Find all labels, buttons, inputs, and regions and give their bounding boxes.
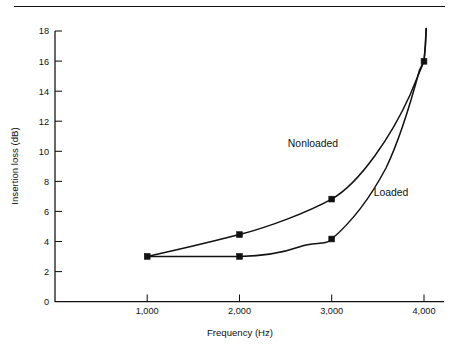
- chart-figure: 18 16 14 12 10 8 6 4 2 0 1,000 2,000 3,0…: [0, 0, 456, 357]
- y-tick-label: 12: [39, 117, 49, 127]
- y-tick-label: 8: [44, 177, 49, 187]
- series-annotation-nonloaded: Nonloaded: [288, 138, 338, 149]
- series-annotation-loaded: Loaded: [374, 187, 409, 198]
- data-point-marker: [237, 232, 243, 238]
- x-tick-label: 4,000: [413, 306, 436, 316]
- y-tick-label: 6: [44, 207, 49, 217]
- y-tick-label: 10: [39, 147, 49, 157]
- data-point-marker: [329, 236, 335, 242]
- y-tick-label: 18: [39, 26, 49, 36]
- x-axis-tick-marks: [147, 295, 424, 302]
- series-curve-nonloaded: [147, 29, 426, 257]
- y-axis-title: Insertion loss (dB): [9, 127, 20, 204]
- data-point-markers: [144, 58, 427, 259]
- y-tick-label: 16: [39, 57, 49, 67]
- y-tick-label: 0: [44, 297, 49, 307]
- data-point-marker: [329, 196, 335, 202]
- y-tick-label: 4: [44, 237, 49, 247]
- x-tick-label: 3,000: [320, 306, 343, 316]
- y-tick-label: 14: [39, 87, 49, 97]
- y-axis-tick-labels: 18 16 14 12 10 8 6 4 2 0: [39, 26, 49, 307]
- axis-lines: [55, 31, 444, 302]
- y-tick-label: 2: [44, 267, 49, 277]
- data-point-marker: [144, 254, 150, 260]
- x-axis-title: Frequency (Hz): [207, 327, 273, 338]
- x-tick-label: 1,000: [136, 306, 159, 316]
- x-axis-tick-labels: 1,000 2,000 3,000 4,000: [136, 306, 436, 316]
- y-axis-tick-marks: [55, 31, 62, 272]
- data-point-marker: [237, 254, 243, 260]
- insertion-loss-line-chart: 18 16 14 12 10 8 6 4 2 0 1,000 2,000 3,0…: [0, 0, 456, 357]
- x-tick-label: 2,000: [228, 306, 251, 316]
- data-point-marker: [421, 58, 427, 64]
